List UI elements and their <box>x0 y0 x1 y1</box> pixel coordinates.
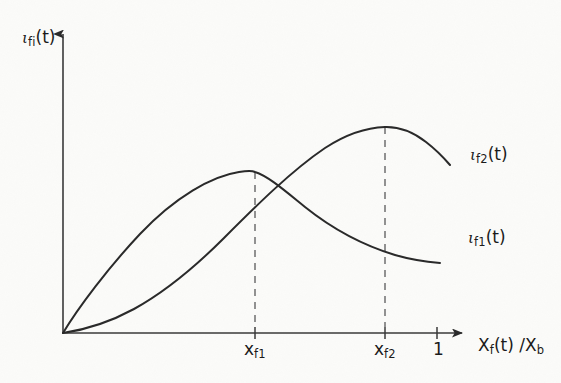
curve-label-f1-subscript: f1 <box>474 235 486 249</box>
curve-iota-f2 <box>63 127 450 333</box>
x-axis-label: Xf(t) /Xb <box>478 337 544 357</box>
paper-grain-texture <box>0 0 561 383</box>
tick-label-xf2: xf2 <box>374 341 396 361</box>
tick-label-one: 1 <box>433 341 444 358</box>
tick-label-xf2-subscript: f2 <box>384 347 396 361</box>
curve-label-f2-subscript: f2 <box>476 152 488 166</box>
curve-label-iota-f2: ιf2(t) <box>470 146 508 166</box>
x-axis-label-mid: (t) /X <box>494 335 537 355</box>
curve-label-iota-f1: ιf1(t) <box>468 229 506 249</box>
x-axis-label-symbol: X <box>478 335 490 355</box>
y-axis-label: ιfi(t) <box>22 29 55 49</box>
curve-label-f1-tail: (t) <box>486 227 506 247</box>
tick-label-xf1-subscript: f1 <box>254 347 266 361</box>
tick-label-xf1-symbol: x <box>244 339 254 359</box>
plot-canvas <box>0 0 561 383</box>
curve-label-f2-tail: (t) <box>488 144 508 164</box>
tick-label-xf2-symbol: x <box>374 339 384 359</box>
x-axis-label-subscript-2: b <box>537 343 545 357</box>
curve-iota-f1 <box>63 171 440 333</box>
figure-container: ιfi(t) Xf(t) /Xb ιf2(t) ιf1(t) xf1 xf2 1 <box>0 0 561 383</box>
tick-label-xf1: xf1 <box>244 341 266 361</box>
y-axis-label-tail: (t) <box>36 27 56 47</box>
y-axis-label-subscript: fi <box>28 35 36 49</box>
